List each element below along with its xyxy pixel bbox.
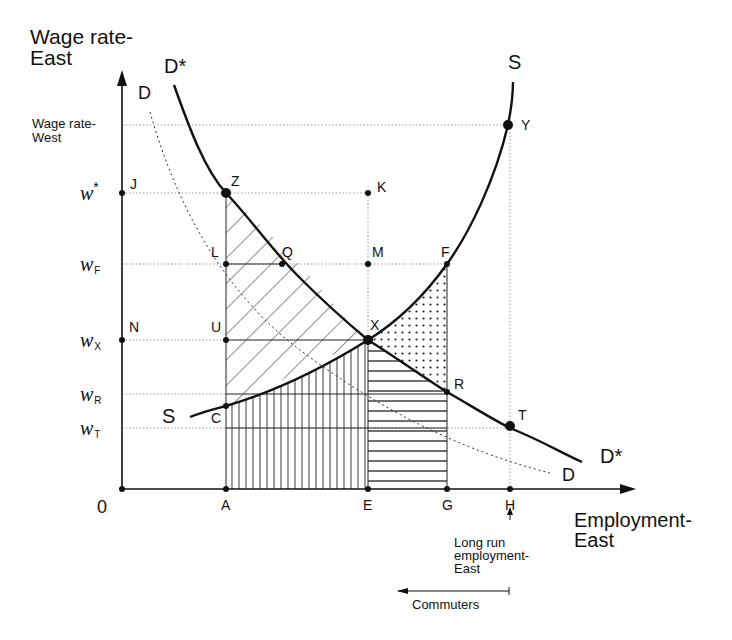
y-tick-w-f-sub: F [94,265,100,276]
y-axis-title-line1: Wage rate- [30,26,133,47]
label-r: R [454,377,464,391]
origin-label: 0 [97,498,107,516]
point-k [365,190,371,196]
x-tick-h: H [505,498,515,512]
y-tick-w-r: wR [80,384,102,406]
point-y [503,120,513,130]
y-tick-wage-west-line2: West [32,131,96,145]
label-x: X [370,318,379,332]
point-z [221,188,231,198]
point-m [365,261,371,267]
point-n [119,337,125,343]
y-tick-w-f-base: w [80,253,93,275]
point-l [223,261,229,267]
point-r [444,389,450,395]
y-tick-wage-west-line1: Wage rate- [32,117,96,131]
y-tick-w-star-base: w [80,182,93,204]
curve-label-d-top: D [138,84,151,102]
x-axis-arrow-icon [620,484,636,494]
y-tick-w-r-sub: R [94,395,101,406]
y-tick-w-f: wF [80,254,100,276]
label-q: Q [282,245,293,259]
y-tick-w-star-sup: * [93,179,98,195]
point-j [119,190,125,196]
curve-label-s-left: S [162,406,175,426]
y-axis-title-line2: East [30,47,133,68]
x-tick-a: A [221,498,230,512]
shaded-areas [226,193,447,489]
label-u: U [211,320,221,334]
label-z: Z [231,174,240,188]
x-tick-g: G [442,498,453,512]
label-f: F [441,245,450,259]
y-tick-w-star: w* [80,180,99,203]
x-axis-title: Employment- East [574,510,692,550]
y-tick-w-t: wT [80,418,100,440]
long-run-employment-note: Long run employment- East [454,536,529,575]
x-axis-title-line1: Employment- [574,510,692,530]
point-g [444,486,450,492]
label-k: K [377,180,386,194]
point-u [223,337,229,343]
commuters-label: Commuters [412,598,479,611]
y-tick-w-t-sub: T [94,429,100,440]
point-f [444,261,450,267]
x-axis-title-line2: East [574,530,692,550]
y-axis-title: Wage rate- East [30,26,133,68]
label-t: T [518,408,527,422]
label-j: J [130,177,137,191]
curve-label-d-star-top: D* [164,56,186,76]
label-c: C [211,411,221,425]
y-tick-wage-west: Wage rate- West [32,117,96,145]
label-m: M [372,245,384,259]
label-n: N [129,320,139,334]
label-l: L [211,245,219,259]
point-t [505,421,515,431]
y-tick-w-x-sub: X [94,341,101,352]
curve-label-d-star-bottom: D* [600,446,622,466]
curve-label-d-bottom: D [562,466,575,484]
point-h [507,486,513,492]
commuters-arrow-icon [397,588,408,594]
point-origin [119,486,125,492]
label-y: Y [521,118,530,132]
point-a [223,486,229,492]
x-tick-e: E [363,498,372,512]
y-axis-arrow-icon [117,70,127,86]
point-c [223,403,229,409]
point-x [363,335,373,345]
curve-label-s-top: S [508,52,521,72]
y-tick-w-r-base: w [80,383,93,405]
y-tick-w-x: wX [80,330,101,352]
point-e [365,486,371,492]
y-tick-w-x-base: w [80,329,93,351]
y-tick-w-t-base: w [80,417,93,439]
point-q [279,261,285,267]
long-run-line3: East [454,562,529,575]
